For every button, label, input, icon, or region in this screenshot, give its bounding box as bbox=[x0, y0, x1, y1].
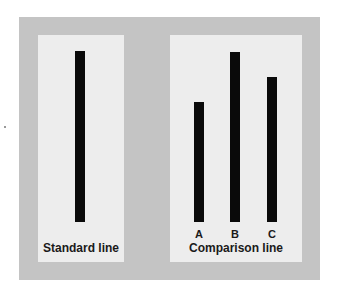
label-b: B bbox=[229, 228, 241, 240]
standard-line-bar bbox=[75, 51, 85, 222]
comparison-bar-b bbox=[230, 52, 240, 222]
stray-mark bbox=[4, 126, 6, 128]
comparison-line-caption: Comparison line bbox=[170, 241, 302, 255]
label-c: C bbox=[266, 228, 278, 240]
standard-line-caption: Standard line bbox=[38, 241, 124, 255]
label-a: A bbox=[193, 228, 205, 240]
comparison-bar-c bbox=[267, 77, 277, 222]
comparison-bar-a bbox=[194, 102, 204, 222]
